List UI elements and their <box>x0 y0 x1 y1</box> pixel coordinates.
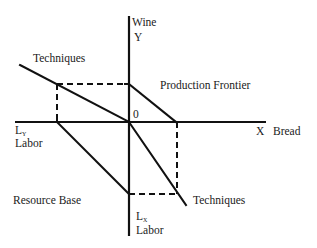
bread-axis-label: Bread <box>273 125 301 137</box>
labor-y-label: Labor <box>15 137 43 149</box>
labor-x-symbol: L <box>136 210 143 222</box>
labor-x-subscript: X <box>143 217 148 223</box>
wine-technique-line <box>20 65 129 122</box>
resource-base-label: Resource Base <box>13 194 81 206</box>
wine-axis-label: Wine <box>132 16 156 28</box>
origin-label: 0 <box>133 108 139 120</box>
x-axis-symbol: X <box>256 125 265 137</box>
labor-y-symbol: L <box>15 124 22 136</box>
production-frontier-label: Production Frontier <box>160 79 251 91</box>
four-quadrant-diagram: Wine Y 0 X Bread L Y Labor L X Labor Tec… <box>0 0 317 248</box>
resource-base-line <box>57 122 129 194</box>
y-axis-symbol: Y <box>134 31 143 43</box>
techniques-upper-label: Techniques <box>33 52 86 65</box>
techniques-lower-label: Techniques <box>193 194 246 207</box>
labor-x-label: Labor <box>136 224 164 236</box>
